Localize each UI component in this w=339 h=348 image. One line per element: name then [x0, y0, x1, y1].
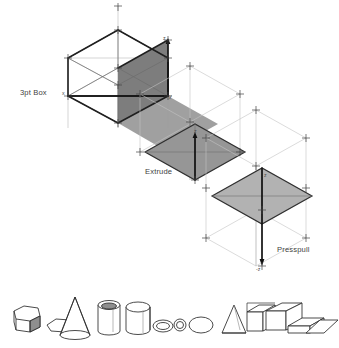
- axis-label-z-stage3: z: [264, 172, 267, 178]
- shape-ellipse-ring-small: [174, 319, 186, 331]
- shape-cylinder-solid: [126, 302, 150, 335]
- shape-pyramid: [222, 305, 246, 333]
- axis-label-z-stage2: z: [194, 128, 197, 134]
- shape-hexagonal-prism: [14, 306, 40, 332]
- primitive-shapes-row: [14, 297, 338, 340]
- shape-ellipse-ring: [153, 320, 173, 332]
- shape-ellipse-flat: [189, 317, 213, 333]
- axis-label-z-stage1: z: [163, 35, 166, 41]
- axis-label-y-stage1: y: [169, 93, 172, 99]
- shape-cone: [60, 297, 90, 340]
- stage-label-presspull: Presspull: [277, 245, 310, 254]
- stage-label-3pt-box: 3pt Box: [20, 88, 47, 97]
- axis-label-minus-z-stage3: -z: [256, 266, 260, 272]
- axis-label-x: x: [62, 90, 65, 96]
- diagram-root: 3pt Box Extrude Presspull x z y z z -z: [0, 0, 339, 348]
- shape-cylinder-tube: [98, 301, 120, 336]
- stage-label-extrude: Extrude: [145, 167, 172, 176]
